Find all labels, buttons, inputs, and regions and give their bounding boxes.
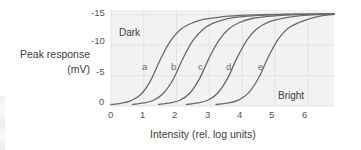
curve-label-a: a [142,62,147,72]
x-tick-label-6: 6 [302,110,307,120]
x-tick-label-3: 3 [205,110,210,120]
y-tick-label--10: -10 [91,36,105,46]
annotation-dark: Dark [119,28,140,38]
figure-container: 0 -5 -10 -15 Peak response (mV) 0 1 2 3 … [0,0,361,150]
x-axis-title: Intensity (rel. log units) [150,129,256,140]
curve-label-b: b [171,62,176,72]
x-tick-label-0: 0 [108,110,113,120]
y-tick-label--15: -15 [91,8,105,18]
x-tick-label-4: 4 [237,110,242,120]
y-axis-title-line2: (mV) [28,63,90,75]
curve-label-c: c [198,62,203,72]
y-axis-title-line1: Peak response [10,48,90,60]
scan-edge-artifact [0,96,5,150]
curve-label-d: d [226,62,231,72]
curve-label-e: e [258,62,263,72]
x-tick-label-2: 2 [172,110,177,120]
y-tick-label-0: 0 [99,97,104,107]
x-tick-label-5: 5 [269,110,274,120]
y-tick-label--5: -5 [96,67,104,77]
annotation-bright: Bright [278,91,304,101]
x-tick-label-1: 1 [140,110,145,120]
